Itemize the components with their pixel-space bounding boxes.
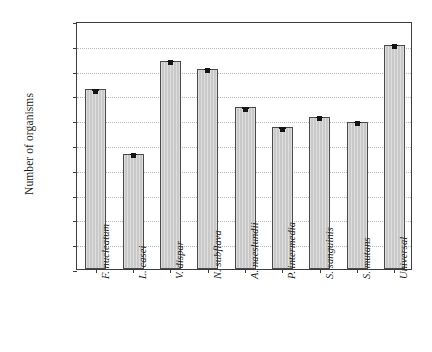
- y-tick-mark: [73, 48, 77, 49]
- data-point-marker: [280, 127, 285, 132]
- y-tick-mark: [73, 147, 77, 148]
- x-tick-mark: [96, 269, 97, 273]
- x-tick-label: Universal: [398, 237, 409, 279]
- y-tick-mark: [73, 271, 77, 272]
- x-tick-mark: [282, 269, 283, 273]
- y-tick-mark: [73, 23, 77, 24]
- gridline: [77, 48, 411, 49]
- y-tick-mark: [73, 97, 77, 98]
- gridline: [77, 97, 411, 98]
- x-tick-label: L. casei: [137, 246, 148, 279]
- x-tick-label: P. intermedia: [286, 222, 297, 279]
- y-tick-mark: [73, 172, 77, 173]
- x-tick-label: F. nucleatum: [100, 224, 111, 279]
- plot-area: 1E+101E+091E+081E+071E+061E+051E+041E+03…: [76, 22, 412, 270]
- data-point-marker: [355, 121, 360, 126]
- data-point-marker: [168, 60, 173, 65]
- x-tick-mark: [394, 269, 395, 273]
- chart-figure: Number of organisms 1E+101E+091E+081E+07…: [0, 0, 432, 352]
- x-tick-mark: [170, 269, 171, 273]
- x-tick-mark: [133, 269, 134, 273]
- x-tick-label: A. naeslundii: [249, 222, 260, 279]
- x-tick-label: S. mutans: [361, 237, 372, 279]
- data-point-marker: [93, 89, 98, 94]
- data-point-marker: [317, 116, 322, 121]
- data-point-marker: [243, 107, 248, 112]
- y-tick-mark: [73, 197, 77, 198]
- y-axis-title: Number of organisms: [23, 59, 35, 229]
- y-tick-mark: [73, 246, 77, 247]
- x-tick-mark: [320, 269, 321, 273]
- data-point-marker: [205, 68, 210, 73]
- x-tick-label: N. subflava: [212, 230, 223, 279]
- x-tick-label: V. dispar: [174, 241, 185, 279]
- x-tick-mark: [208, 269, 209, 273]
- bar-texture: [385, 46, 404, 268]
- x-tick-label: S. sanguinis: [324, 227, 335, 279]
- x-tick-mark: [245, 269, 246, 273]
- gridline: [77, 73, 411, 74]
- bar-v-dispar: [160, 61, 181, 269]
- y-tick-mark: [73, 122, 77, 123]
- bar-universal: [384, 45, 405, 269]
- y-tick-mark: [73, 221, 77, 222]
- bar-texture: [161, 62, 180, 268]
- x-tick-mark: [357, 269, 358, 273]
- data-point-marker: [131, 153, 136, 158]
- data-point-marker: [392, 44, 397, 49]
- y-tick-mark: [73, 73, 77, 74]
